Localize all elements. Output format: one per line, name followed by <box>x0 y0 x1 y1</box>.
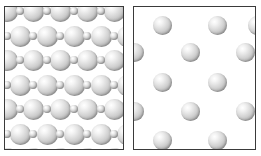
small-sphere <box>56 130 64 138</box>
small-sphere <box>29 81 37 89</box>
uniform-sphere <box>236 43 255 62</box>
uniform-sphere <box>153 16 172 35</box>
small-sphere <box>43 7 51 15</box>
small-sphere <box>97 7 105 15</box>
small-sphere <box>110 130 118 138</box>
large-sphere <box>10 124 31 145</box>
small-sphere <box>43 56 51 64</box>
large-sphere <box>104 148 125 151</box>
small-sphere <box>16 7 24 15</box>
large-sphere <box>64 75 85 96</box>
small-sphere <box>70 7 78 15</box>
small-sphere <box>110 81 118 89</box>
uniform-sphere <box>133 102 144 121</box>
large-sphere <box>23 50 44 71</box>
large-sphere <box>50 6 71 22</box>
large-sphere <box>23 148 44 151</box>
small-sphere <box>29 32 37 40</box>
small-sphere <box>16 56 24 64</box>
small-sphere <box>70 56 78 64</box>
uniform-sphere <box>208 16 227 35</box>
large-sphere <box>23 6 44 22</box>
large-sphere <box>77 99 98 120</box>
large-sphere <box>91 26 112 47</box>
large-sphere <box>64 124 85 145</box>
large-sphere <box>91 124 112 145</box>
large-sphere <box>50 50 71 71</box>
small-sphere <box>97 105 105 113</box>
uniform-sphere <box>208 131 227 150</box>
panel-dense-binary-lattice <box>4 6 124 150</box>
uniform-sphere <box>181 43 200 62</box>
small-sphere <box>16 105 24 113</box>
small-sphere <box>123 7 124 15</box>
large-sphere <box>10 26 31 47</box>
small-sphere <box>123 56 124 64</box>
large-sphere <box>10 75 31 96</box>
small-sphere <box>56 81 64 89</box>
sphere-lattice-figure <box>0 0 261 156</box>
small-sphere <box>56 32 64 40</box>
uniform-sphere <box>181 102 200 121</box>
uniform-sphere <box>248 16 257 35</box>
small-sphere <box>83 130 91 138</box>
small-sphere <box>110 32 118 40</box>
large-sphere <box>77 50 98 71</box>
large-sphere <box>77 148 98 151</box>
uniform-sphere <box>208 73 227 92</box>
large-sphere <box>50 99 71 120</box>
uniform-sphere <box>236 102 255 121</box>
large-sphere <box>37 75 58 96</box>
small-sphere <box>123 105 124 113</box>
uniform-sphere <box>153 131 172 150</box>
uniform-sphere <box>133 43 144 62</box>
panel-sparse-uniform-lattice <box>133 6 256 150</box>
small-sphere <box>43 105 51 113</box>
large-sphere <box>23 99 44 120</box>
small-sphere <box>70 105 78 113</box>
large-sphere <box>104 6 125 22</box>
large-sphere <box>104 50 125 71</box>
large-sphere <box>37 26 58 47</box>
small-sphere <box>97 56 105 64</box>
small-sphere <box>29 130 37 138</box>
large-sphere <box>50 148 71 151</box>
large-sphere <box>104 99 125 120</box>
large-sphere <box>77 6 98 22</box>
uniform-sphere <box>153 73 172 92</box>
large-sphere <box>64 26 85 47</box>
large-sphere <box>37 124 58 145</box>
large-sphere <box>4 148 18 151</box>
small-sphere <box>83 81 91 89</box>
large-sphere <box>91 75 112 96</box>
small-sphere <box>83 32 91 40</box>
